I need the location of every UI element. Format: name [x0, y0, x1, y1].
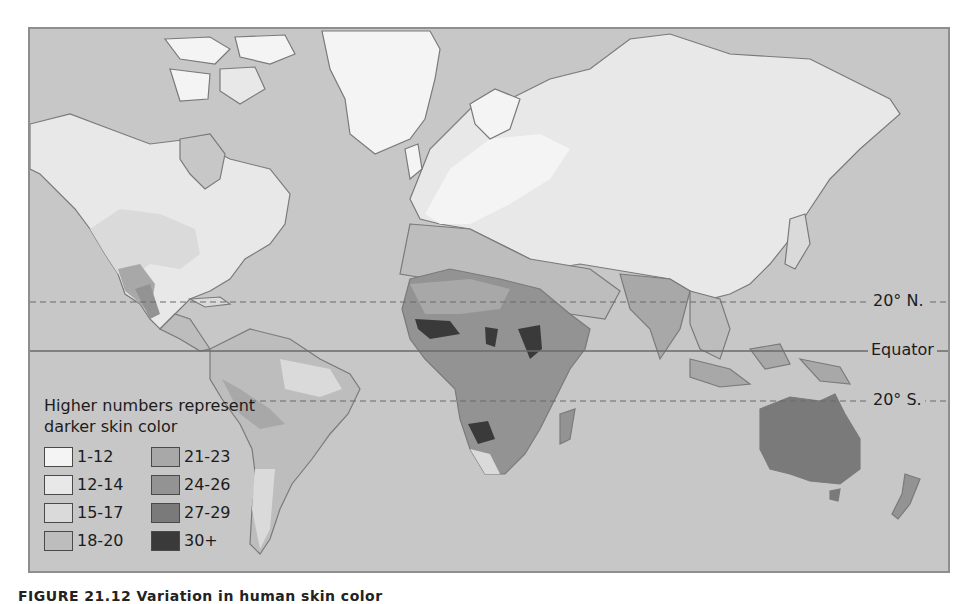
- swatch-icon: [151, 475, 180, 495]
- legend-item: 24-26: [151, 473, 261, 496]
- greenland: [322, 31, 440, 154]
- swatch-icon: [44, 475, 73, 495]
- swatch-icon: [151, 503, 180, 523]
- swatch-icon: [44, 503, 73, 523]
- world-map: 20° N. Equator 20° S. Higher numbers rep…: [28, 27, 950, 573]
- label-20n: 20° N.: [870, 292, 927, 310]
- swatch-icon: [44, 447, 73, 467]
- swatch-icon: [44, 531, 73, 551]
- legend-item: 18-20: [44, 529, 149, 552]
- figure-caption: FIGURE 21.12 Variation in human skin col…: [18, 588, 383, 604]
- legend-item: 1-12: [44, 445, 149, 468]
- map-legend: Higher numbers represent darker skin col…: [44, 395, 264, 552]
- australia: [760, 394, 860, 484]
- legend-item: 12-14: [44, 473, 149, 496]
- legend-item: 30+: [151, 529, 261, 552]
- legend-item: 15-17: [44, 501, 149, 524]
- swatch-icon: [151, 531, 180, 551]
- legend-item: 27-29: [151, 501, 261, 524]
- legend-title: Higher numbers represent darker skin col…: [44, 395, 264, 437]
- label-20s: 20° S.: [870, 391, 925, 409]
- label-equator: Equator: [868, 341, 937, 359]
- legend-item: 21-23: [151, 445, 261, 468]
- swatch-icon: [151, 447, 180, 467]
